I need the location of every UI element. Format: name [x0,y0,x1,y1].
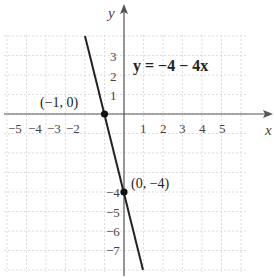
x-tick-label: 1 [140,121,147,136]
grid [4,35,248,272]
y-tick-label: −5 [106,205,120,220]
graph-figure: x y −5 −4 −3 −2 1 2 3 4 5 3 2 1 −4 −5 −6… [0,0,274,278]
x-tick-label: −2 [66,121,80,136]
x-axis-label: x [264,122,272,138]
y-tick-label: 2 [110,69,117,84]
y-axis-label: y [106,5,115,21]
y-tick-label: −7 [106,243,120,258]
point-x-intercept [101,110,108,117]
x-tick-label: 4 [199,121,206,136]
point-y-intercept [120,188,127,195]
x-tick-label: 5 [219,121,226,136]
y-tick-label: 3 [110,49,117,64]
y-tick-label: 1 [110,88,117,103]
x-tick-label: 3 [179,121,186,136]
x-tick-label: 2 [160,121,167,136]
y-tick-label: −6 [106,224,120,239]
x-tick-label: −4 [28,121,42,136]
y-tick-label: −4 [106,185,120,200]
point-label-y-intercept: (0, −4) [131,176,170,192]
coordinate-plane: x y −5 −4 −3 −2 1 2 3 4 5 3 2 1 −4 −5 −6… [0,0,274,278]
x-tick-label: −3 [47,121,61,136]
x-tick-label: −5 [8,121,22,136]
equation-label: y = −4 − 4x [133,57,208,75]
point-label-x-intercept: (−1, 0) [40,95,79,111]
